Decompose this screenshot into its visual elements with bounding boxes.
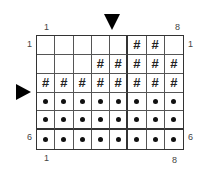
grid-cell: [37, 111, 55, 130]
dot-symbol-icon: [116, 99, 121, 104]
grid-cell: [147, 130, 165, 149]
dot-symbol-icon: [171, 137, 176, 142]
grid-cell: [110, 93, 128, 112]
grid-cell: [110, 130, 128, 149]
grid-cell-hash: #: [110, 74, 128, 93]
grid-cell-hash: #: [55, 74, 73, 93]
grid-cell: [165, 111, 183, 130]
grid-cell-hash: #: [165, 74, 183, 93]
grid-cell: [92, 36, 110, 55]
grid-cell: [37, 130, 55, 149]
dot-symbol-icon: [98, 137, 103, 142]
grid-cell-hash: #: [128, 74, 146, 93]
dot-symbol-icon: [134, 99, 139, 104]
top-col-label-first: 1: [44, 22, 49, 32]
right-row-label-first: 1: [188, 39, 193, 49]
grid-cell: [128, 130, 146, 149]
grid-cell: [37, 36, 55, 55]
pattern-chart-grid: ###############: [36, 35, 184, 150]
grid-cell-hash: #: [147, 55, 165, 74]
dot-symbol-icon: [80, 99, 85, 104]
grid-cell-hash: #: [128, 36, 146, 55]
dot-symbol-icon: [98, 117, 103, 122]
dot-symbol-icon: [171, 99, 176, 104]
top-col-label-last: 8: [175, 22, 180, 32]
grid-cell: [37, 55, 55, 74]
grid-cell: [128, 111, 146, 130]
dot-symbol-icon: [61, 137, 66, 142]
left-row-label-last: 6: [27, 132, 32, 142]
row-marker-arrow-icon: [16, 84, 31, 100]
dot-symbol-icon: [43, 137, 48, 142]
dot-symbol-icon: [153, 99, 158, 104]
grid-cell: [165, 36, 183, 55]
grid-cell: [74, 130, 92, 149]
grid-cell: [128, 93, 146, 112]
grid-cell: [92, 93, 110, 112]
grid-cell: [147, 111, 165, 130]
dot-symbol-icon: [61, 117, 66, 122]
grid-cell: [74, 111, 92, 130]
dot-symbol-icon: [153, 117, 158, 122]
dot-symbol-icon: [116, 117, 121, 122]
bottom-col-label-first: 1: [44, 153, 49, 163]
grid-cell-hash: #: [92, 55, 110, 74]
grid-cell: [110, 36, 128, 55]
dot-symbol-icon: [43, 99, 48, 104]
left-row-label-first: 1: [27, 39, 32, 49]
dot-symbol-icon: [61, 99, 66, 104]
dot-symbol-icon: [43, 117, 48, 122]
dot-symbol-icon: [134, 137, 139, 142]
bottom-col-label-last: 8: [172, 155, 177, 165]
dot-symbol-icon: [98, 99, 103, 104]
grid-cell: [110, 111, 128, 130]
grid-cell: [55, 111, 73, 130]
grid-cell: [147, 93, 165, 112]
grid-cell-hash: #: [37, 74, 55, 93]
grid-cell: [55, 36, 73, 55]
grid-cell: [74, 55, 92, 74]
grid-cell: [92, 130, 110, 149]
grid-cell-hash: #: [128, 55, 146, 74]
grid-cell: [55, 55, 73, 74]
grid-cell: [74, 36, 92, 55]
dot-symbol-icon: [116, 137, 121, 142]
dot-symbol-icon: [134, 117, 139, 122]
dot-symbol-icon: [80, 117, 85, 122]
grid-cell: [92, 111, 110, 130]
grid-cell-hash: #: [110, 55, 128, 74]
dot-symbol-icon: [153, 137, 158, 142]
dot-symbol-icon: [80, 137, 85, 142]
right-row-label-last: 6: [188, 132, 193, 142]
grid-cell-hash: #: [92, 74, 110, 93]
grid-cell: [74, 93, 92, 112]
grid-cell-hash: #: [147, 74, 165, 93]
dot-symbol-icon: [171, 117, 176, 122]
grid-cell: [165, 130, 183, 149]
grid-cell: [165, 93, 183, 112]
grid-cell: [55, 130, 73, 149]
grid-cell: [55, 93, 73, 112]
grid-cell-hash: #: [147, 36, 165, 55]
grid-cell-hash: #: [74, 74, 92, 93]
grid-cell: [37, 93, 55, 112]
column-marker-arrow-icon: [104, 14, 120, 30]
grid-cell-hash: #: [165, 55, 183, 74]
